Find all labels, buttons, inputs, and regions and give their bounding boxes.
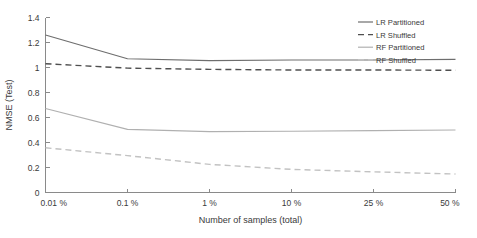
- y-tick-label: 1: [35, 63, 40, 73]
- y-tick-label: 0.2: [28, 163, 40, 173]
- x-tick-label: 25 %: [364, 198, 384, 208]
- series-line-rf-partitioned: [46, 109, 456, 132]
- x-tick-label: 50 %: [440, 198, 460, 208]
- chart-figure: 00.20.40.60.811.21.40.01 %0.1 %1 %10 %25…: [0, 0, 477, 238]
- x-tick-label: 0.01 %: [41, 198, 68, 208]
- legend-label-lr-shuffled: LR Shuffled: [376, 31, 416, 40]
- x-tick-label: 0.1 %: [117, 198, 139, 208]
- y-axis-title: NMSE (Test): [4, 79, 14, 130]
- legend-label-rf-partitioned: RF Partitioned: [376, 43, 425, 52]
- legend-label-lr-partitioned: LR Partitioned: [376, 18, 424, 27]
- y-tick-label: 1.4: [28, 13, 40, 23]
- x-axis-title: Number of samples (total): [199, 215, 303, 225]
- series-line-rf-shuffled: [46, 148, 456, 174]
- y-tick-label: 1.2: [28, 38, 40, 48]
- y-tick-label: 0: [35, 188, 40, 198]
- x-tick-label: 1 %: [202, 198, 217, 208]
- x-tick-label: 10 %: [282, 198, 302, 208]
- chart-canvas: 00.20.40.60.811.21.40.01 %0.1 %1 %10 %25…: [0, 0, 477, 238]
- legend-label-rf-shuffled: RF Shuffled: [376, 56, 416, 65]
- y-tick-label: 0.8: [28, 88, 40, 98]
- y-tick-label: 0.6: [28, 113, 40, 123]
- y-tick-label: 0.4: [28, 138, 40, 148]
